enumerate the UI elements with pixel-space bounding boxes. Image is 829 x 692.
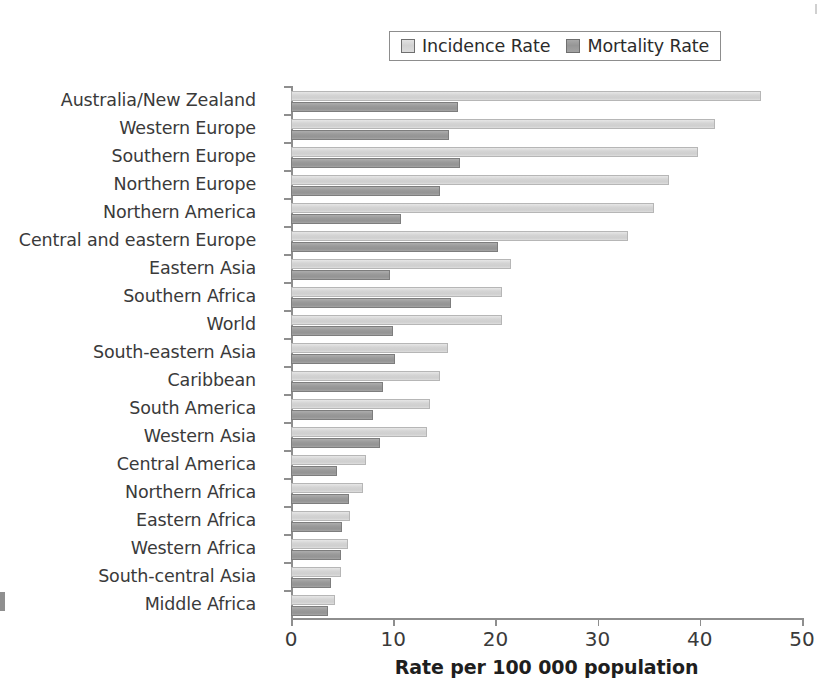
bar-incidence[interactable] [291, 147, 698, 157]
bar-mortality[interactable] [291, 130, 449, 140]
legend-entry-incidence[interactable]: Incidence Rate [401, 36, 550, 56]
y-axis-category-label: Northern Africa [125, 482, 256, 502]
bar-mortality[interactable] [291, 494, 349, 504]
chart-category-row: Western Europe [291, 114, 802, 142]
chart-category-row: Northern America [291, 198, 802, 226]
chart-category-row: Southern Africa [291, 282, 802, 310]
legend-label: Mortality Rate [587, 36, 709, 56]
bar-mortality[interactable] [291, 214, 401, 224]
chart-category-row: Middle Africa [291, 590, 802, 618]
bar-incidence[interactable] [291, 343, 448, 353]
y-axis-tick [284, 450, 291, 452]
legend-label: Incidence Rate [422, 36, 550, 56]
bar-mortality[interactable] [291, 270, 390, 280]
y-axis-tick [284, 338, 291, 340]
y-axis-category-label: South-central Asia [98, 566, 256, 586]
y-axis-tick [284, 114, 291, 116]
chart-category-row: Western Africa [291, 534, 802, 562]
bar-mortality[interactable] [291, 326, 393, 336]
y-axis-category-label: Central and eastern Europe [19, 230, 256, 250]
bar-incidence[interactable] [291, 511, 350, 521]
y-axis-tick [284, 170, 291, 172]
y-axis-tick [284, 366, 291, 368]
y-axis-category-label: South America [129, 398, 256, 418]
chart-category-row: South-eastern Asia [291, 338, 802, 366]
bar-incidence[interactable] [291, 567, 341, 577]
chart-category-row: Northern Africa [291, 478, 802, 506]
chart-category-row: World [291, 310, 802, 338]
y-axis-category-label: Southern Africa [123, 286, 256, 306]
bar-mortality[interactable] [291, 186, 440, 196]
y-axis-tick [284, 198, 291, 200]
bar-incidence[interactable] [291, 231, 628, 241]
bar-mortality[interactable] [291, 550, 341, 560]
bar-incidence[interactable] [291, 371, 440, 381]
bar-incidence[interactable] [291, 287, 502, 297]
y-axis-category-label: Western Africa [131, 538, 256, 558]
legend-entry-mortality[interactable]: Mortality Rate [566, 36, 709, 56]
chart-legend: Incidence RateMortality Rate [389, 31, 721, 61]
y-axis-tick [284, 478, 291, 480]
y-axis-category-label: Eastern Asia [149, 258, 256, 278]
y-axis-tick [284, 422, 291, 424]
bar-incidence[interactable] [291, 455, 366, 465]
bar-mortality[interactable] [291, 102, 458, 112]
chart-category-row: Caribbean [291, 366, 802, 394]
x-axis-tick [291, 618, 293, 626]
y-axis-tick [284, 282, 291, 284]
bar-mortality[interactable] [291, 578, 331, 588]
plot-area: Australia/New ZealandWestern EuropeSouth… [291, 86, 802, 618]
x-axis-tick [598, 618, 600, 626]
x-axis-tick-label: 20 [483, 627, 508, 651]
y-axis-tick [284, 310, 291, 312]
bar-incidence[interactable] [291, 259, 511, 269]
x-axis-tick [495, 618, 497, 626]
chart-category-row: Western Asia [291, 422, 802, 450]
bar-mortality[interactable] [291, 158, 460, 168]
bar-incidence[interactable] [291, 427, 427, 437]
chart-category-row: Australia/New Zealand [291, 86, 802, 114]
chart-category-row: South-central Asia [291, 562, 802, 590]
y-axis-category-label: South-eastern Asia [93, 342, 256, 362]
y-axis-tick [284, 590, 291, 592]
x-axis-tick [393, 618, 395, 626]
chart-category-row: Central and eastern Europe [291, 226, 802, 254]
y-axis-category-label: Eastern Africa [136, 510, 256, 530]
x-axis-tick-label: 40 [687, 627, 712, 651]
bar-incidence[interactable] [291, 539, 348, 549]
x-axis-tick-label: 0 [285, 627, 298, 651]
chart-category-row: South America [291, 394, 802, 422]
x-axis-tick [700, 618, 702, 626]
bar-incidence[interactable] [291, 483, 363, 493]
bar-mortality[interactable] [291, 606, 328, 616]
bar-incidence[interactable] [291, 119, 715, 129]
y-axis-category-label: Caribbean [168, 370, 256, 390]
chart-category-row: Eastern Africa [291, 506, 802, 534]
y-axis-category-label: Central America [117, 454, 256, 474]
bar-mortality[interactable] [291, 410, 373, 420]
chart-category-row: Eastern Asia [291, 254, 802, 282]
y-axis-category-label: Western Europe [119, 118, 256, 138]
y-axis-tick [284, 506, 291, 508]
bar-incidence[interactable] [291, 315, 502, 325]
bar-incidence[interactable] [291, 175, 669, 185]
bar-mortality[interactable] [291, 242, 498, 252]
bar-incidence[interactable] [291, 203, 654, 213]
bar-mortality[interactable] [291, 354, 395, 364]
bar-mortality[interactable] [291, 466, 337, 476]
x-axis-tick [802, 618, 804, 626]
y-axis-tick [284, 394, 291, 396]
bar-incidence[interactable] [291, 399, 430, 409]
x-axis-tick-label: 30 [585, 627, 610, 651]
bar-mortality[interactable] [291, 382, 383, 392]
y-axis-category-label: Southern Europe [112, 146, 256, 166]
bar-mortality[interactable] [291, 438, 380, 448]
bar-mortality[interactable] [291, 522, 342, 532]
bar-incidence[interactable] [291, 595, 335, 605]
bar-mortality[interactable] [291, 298, 451, 308]
y-axis-category-label: Australia/New Zealand [61, 90, 256, 110]
x-axis-line [291, 618, 803, 620]
bar-incidence[interactable] [291, 91, 761, 101]
y-axis-tick [284, 534, 291, 536]
y-axis-category-label: Northern Europe [113, 174, 256, 194]
